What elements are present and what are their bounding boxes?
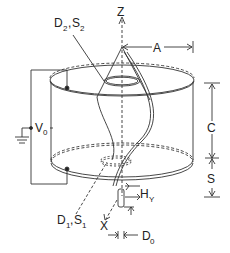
svg-text:V: V [35, 121, 43, 135]
dimension-d0-label: D 0 [142, 229, 155, 246]
top-aperture-label: D 2 , S 2 [54, 16, 85, 33]
bottom-aperture-leader [76, 162, 107, 214]
dimension-a-label: A [153, 41, 161, 55]
svg-text:S: S [74, 213, 82, 227]
top-aperture-leader [73, 35, 104, 81]
svg-text:Y: Y [149, 195, 155, 204]
particle-trajectory [97, 52, 154, 186]
dimension-s-label: S [207, 172, 215, 186]
z-axis-label: Z [117, 5, 124, 19]
dimension-d0 [108, 231, 138, 239]
svg-text:D: D [57, 213, 66, 227]
svg-text:,: , [70, 213, 73, 227]
source-cylinder [118, 183, 140, 215]
x-axis-label: X [100, 219, 108, 233]
svg-text:0: 0 [43, 128, 48, 137]
voltage-label: V 0 [35, 121, 48, 137]
svg-text:0: 0 [150, 237, 155, 246]
svg-text:1: 1 [82, 221, 87, 230]
svg-text:2: 2 [80, 24, 85, 33]
svg-text:,: , [68, 16, 71, 30]
svg-text:H: H [140, 187, 149, 201]
apparatus-diagram: Z A [0, 0, 230, 253]
source-height-label: H Y [140, 187, 155, 204]
svg-text:D: D [54, 16, 63, 30]
x-axis [104, 200, 117, 220]
svg-text:S: S [72, 16, 80, 30]
acceptance-cone [97, 47, 150, 100]
dimension-c-label: C [207, 121, 216, 135]
bottom-aperture-label: D 1 , S 1 [57, 213, 87, 230]
